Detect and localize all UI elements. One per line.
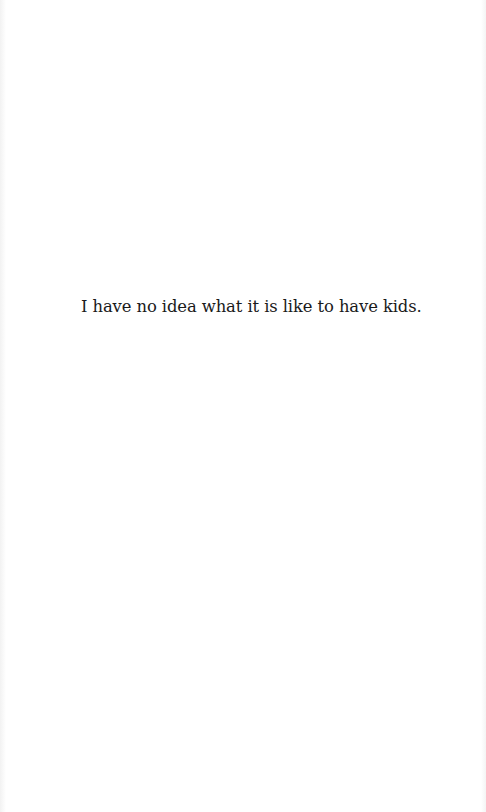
page-edge-left	[0, 0, 6, 812]
book-page: I have no idea what it is like to have k…	[0, 0, 486, 812]
body-text-line: I have no idea what it is like to have k…	[81, 297, 422, 316]
page-edge-right	[481, 0, 486, 812]
